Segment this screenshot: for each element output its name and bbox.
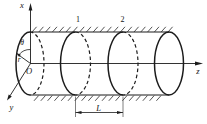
- z-axis-label: z: [195, 66, 200, 76]
- theta-label: θ: [20, 38, 24, 47]
- bottom-wall-hatching: [34, 96, 161, 101]
- length-label: L: [95, 103, 101, 113]
- top-wall-hatching: [32, 27, 173, 32]
- z-axis: [31, 62, 204, 66]
- origin-label: O: [26, 66, 32, 76]
- dimension-arrow-right: [117, 111, 123, 114]
- y-axis-label: y: [9, 102, 14, 112]
- radius-label: r: [18, 55, 21, 64]
- dimension-arrow-left: [76, 111, 82, 114]
- x-axis-arrowhead: [29, 3, 33, 11]
- x-axis: [29, 3, 33, 64]
- y-axis-arrowhead: [7, 94, 12, 100]
- diagram-canvas: x z y O r θ 1 2 L: [0, 0, 207, 124]
- x-axis-label: x: [19, 0, 24, 10]
- section-2-label: 2: [121, 15, 125, 24]
- cylinder-coordinate-diagram: x z y O r θ 1 2 L: [0, 0, 207, 124]
- section-1-label: 1: [76, 15, 80, 24]
